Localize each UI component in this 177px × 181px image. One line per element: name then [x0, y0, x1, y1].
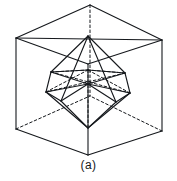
geometry-figure: [0, 0, 177, 181]
figure-container: (a): [0, 0, 177, 181]
figure-caption: (a): [0, 158, 177, 172]
